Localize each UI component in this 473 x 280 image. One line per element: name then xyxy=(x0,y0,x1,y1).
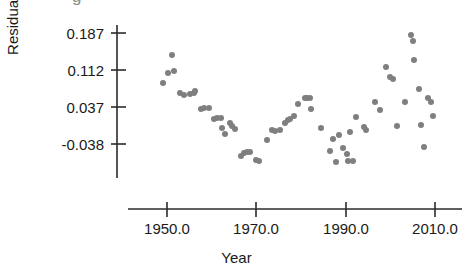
data-point xyxy=(318,125,324,131)
x-tick-label-2010: 2010.0 xyxy=(385,220,473,237)
data-point xyxy=(372,99,378,105)
data-point xyxy=(402,99,408,105)
x-tick-label-1950: 1950.0 xyxy=(117,220,217,237)
y-tick-label-0187: 0.187 xyxy=(38,25,104,42)
data-point xyxy=(222,131,228,137)
data-point xyxy=(206,105,212,111)
data-point xyxy=(295,101,301,107)
data-point xyxy=(340,145,346,151)
data-point xyxy=(377,107,383,113)
plot-area: 0.187 0.112 0.037 -0.038 1950.0 1970.0 1… xyxy=(0,0,473,280)
data-point xyxy=(330,136,336,142)
data-point xyxy=(394,123,400,129)
data-point xyxy=(307,95,313,101)
data-point xyxy=(428,99,434,105)
y-tick-label-0112: 0.112 xyxy=(38,62,104,79)
y-tick-label-neg0038: -0.038 xyxy=(30,136,104,153)
scatter-plot-figure: g Residuals Year 0.187 0.112 0.037 -0.03… xyxy=(0,0,473,280)
x-tick-label-1970: 1970.0 xyxy=(206,220,306,237)
data-point xyxy=(247,149,253,155)
data-point xyxy=(333,159,339,165)
x-tick-label-1990: 1990.0 xyxy=(296,220,396,237)
data-point xyxy=(308,106,314,112)
y-axis xyxy=(111,25,126,178)
data-point xyxy=(418,122,424,128)
data-point xyxy=(218,115,224,121)
data-point xyxy=(416,86,422,92)
data-point xyxy=(383,64,389,70)
data-point xyxy=(350,158,356,164)
data-point xyxy=(327,148,333,154)
x-axis xyxy=(128,202,462,217)
data-point xyxy=(411,57,417,63)
data-point xyxy=(344,151,350,157)
data-point xyxy=(353,114,359,120)
data-point xyxy=(171,68,177,74)
data-point xyxy=(336,132,342,138)
y-tick-label-0037: 0.037 xyxy=(38,99,104,116)
